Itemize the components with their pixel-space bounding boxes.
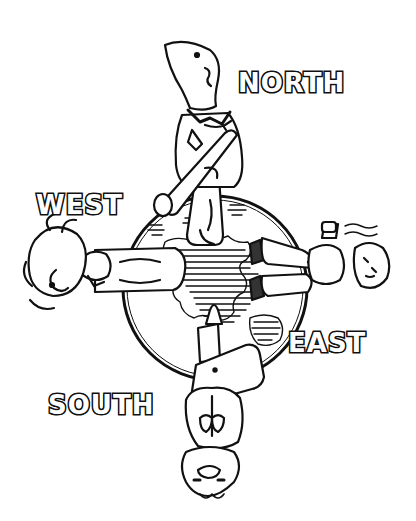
illustration-artwork [0, 0, 416, 521]
west-figure [24, 214, 185, 309]
north-figure [154, 42, 242, 245]
north-label: NORTH [238, 70, 345, 96]
compass-illustration: NORTH WEST EAST SOUTH [0, 0, 416, 521]
east-figure [250, 222, 389, 300]
west-label: WEST [36, 192, 123, 218]
east-label: EAST [288, 330, 366, 356]
south-label: SOUTH [48, 392, 154, 418]
